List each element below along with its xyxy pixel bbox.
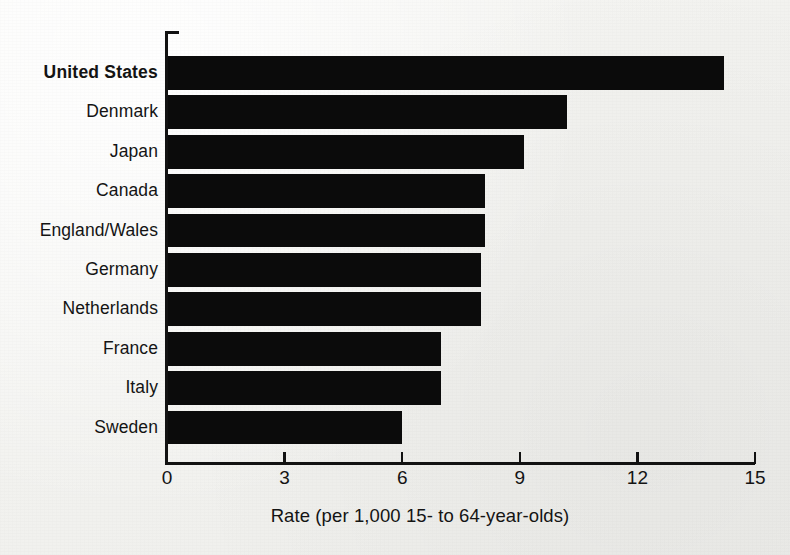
x-axis-tick-label-12: 12 <box>627 468 648 487</box>
category-label-italy: Italy <box>125 379 158 397</box>
bar-canada <box>167 174 485 208</box>
bar-england-wales <box>167 214 485 248</box>
bar-germany <box>167 253 481 287</box>
category-label-sweden: Sweden <box>94 419 158 437</box>
x-axis-line <box>165 462 755 465</box>
x-axis-tick-0 <box>166 452 169 464</box>
bar-italy <box>167 371 441 405</box>
x-axis-tick-3 <box>283 452 286 463</box>
category-label-japan: Japan <box>110 143 158 161</box>
y-axis-line <box>165 31 168 464</box>
category-label-united-states: United States <box>44 64 158 82</box>
category-label-germany: Germany <box>85 261 158 279</box>
x-axis-tick-label-15: 15 <box>744 468 765 487</box>
x-axis-tick-label-3: 3 <box>279 468 290 487</box>
x-axis-tick-9 <box>519 452 522 463</box>
x-axis-tick-6 <box>401 452 404 463</box>
horizontal-bar-chart: United States Denmark Japan Canada Engla… <box>0 0 790 555</box>
bar-denmark <box>167 95 567 129</box>
category-label-france: France <box>103 340 158 358</box>
x-axis-tick-12 <box>636 452 639 463</box>
y-axis-top-tick <box>165 31 179 34</box>
bar-sweden <box>167 411 402 445</box>
x-axis-tick-label-9: 9 <box>515 468 526 487</box>
bar-united-states <box>167 56 724 90</box>
x-axis-tick-15 <box>754 452 757 464</box>
category-label-netherlands: Netherlands <box>63 301 158 319</box>
x-axis-title: Rate (per 1,000 15- to 64-year-olds) <box>0 505 790 527</box>
category-label-denmark: Denmark <box>86 104 158 122</box>
x-axis-tick-label-0: 0 <box>162 468 173 487</box>
bar-france <box>167 332 441 366</box>
bar-netherlands <box>167 292 481 326</box>
x-axis-tick-label-6: 6 <box>397 468 408 487</box>
category-label-england-wales: England/Wales <box>40 222 158 240</box>
bar-japan <box>167 135 524 169</box>
category-label-canada: Canada <box>96 182 158 200</box>
